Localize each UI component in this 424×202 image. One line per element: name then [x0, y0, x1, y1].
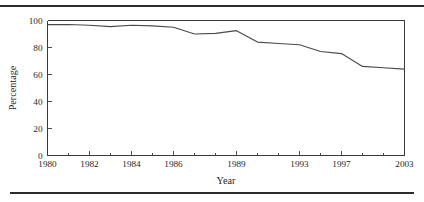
y-tick-label: 20 — [33, 124, 43, 134]
axis-frame — [48, 21, 405, 156]
chart-axes — [48, 21, 405, 156]
data-line-percentage — [48, 25, 405, 70]
y-tick-label: 60 — [33, 70, 43, 80]
x-tick-label: 1997 — [332, 159, 351, 169]
data-series-group — [48, 25, 405, 70]
x-axis-title: Year — [217, 175, 236, 186]
x-tick-label: 1980 — [38, 159, 57, 169]
x-tick-label: 1993 — [290, 159, 309, 169]
x-tick-label: 1984 — [122, 159, 141, 169]
figure-container: 020406080100 198019821984198619891993199… — [0, 0, 424, 202]
line-chart: 020406080100 198019821984198619891993199… — [0, 0, 424, 202]
chart-svg: 020406080100 198019821984198619891993199… — [0, 0, 424, 202]
x-tick-label: 1986 — [164, 159, 183, 169]
y-tick-label: 80 — [33, 43, 43, 53]
x-axis-ticks: 19801982198419861989199319972003 — [38, 151, 414, 169]
y-tick-label: 100 — [29, 16, 43, 26]
y-axis-ticks: 020406080100 — [29, 16, 52, 161]
x-tick-label: 1982 — [80, 159, 99, 169]
x-tick-label: 2003 — [395, 159, 414, 169]
y-axis-title: Percentage — [7, 65, 18, 110]
y-tick-label: 40 — [33, 97, 43, 107]
x-tick-label: 1989 — [227, 159, 246, 169]
